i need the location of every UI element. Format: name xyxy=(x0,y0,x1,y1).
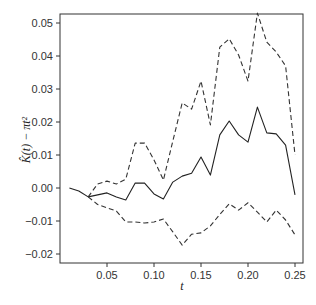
x-tick-label: 0.10 xyxy=(143,269,164,281)
series-layer xyxy=(69,13,295,245)
y-tick-label: −0.01 xyxy=(25,215,53,227)
y-tick-label: 0.05 xyxy=(32,17,53,29)
y-tick-label: 0.04 xyxy=(32,50,53,62)
plot-frame xyxy=(60,14,303,263)
y-tick-label: −0.02 xyxy=(25,248,53,260)
y-tick-label: 0.01 xyxy=(32,149,53,161)
y-tick-label: 0.03 xyxy=(32,83,53,95)
x-tick-label: 0.25 xyxy=(284,269,305,281)
x-tick-label: 0.20 xyxy=(237,269,258,281)
x-axis: 0.050.100.150.200.25 xyxy=(96,263,305,281)
x-tick-label: 0.05 xyxy=(96,269,117,281)
x-axis-label: t xyxy=(180,279,184,293)
chart: −0.02−0.010.000.010.020.030.040.05 0.050… xyxy=(0,0,316,305)
lower-envelope-line xyxy=(88,197,295,245)
y-tick-label: 0.02 xyxy=(32,116,53,128)
x-tick-label: 0.15 xyxy=(190,269,211,281)
estimate-line xyxy=(69,107,295,200)
y-tick-label: 0.00 xyxy=(32,182,53,194)
upper-envelope-line xyxy=(88,13,295,197)
y-axis-label: K̂(t) − πt² xyxy=(19,116,33,164)
